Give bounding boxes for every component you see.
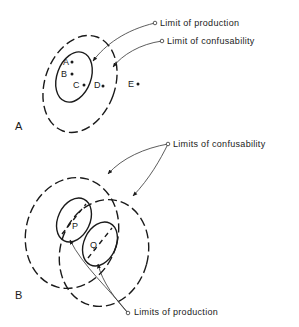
confusability-leader-a [113,41,162,67]
confusability-leader-anchor [160,39,164,43]
confusability-boundary-p [13,167,131,299]
svg-text:A: A [63,57,69,67]
production-leader-a [93,23,155,61]
panel-b-label: B [15,289,22,301]
region-p-label: P [72,221,78,231]
confusability-boundary-a [30,25,130,143]
production-leader-anchor-b [126,311,130,315]
production-leader-anchor [153,21,157,25]
svg-text:B: B [61,69,67,79]
confusability-boundary-q [48,189,161,316]
svg-text:C: C [73,80,80,90]
region-q-label: Q [90,240,97,250]
limit-of-confusability-label: Limit of confusability [167,36,255,46]
svg-text:E: E [128,79,134,89]
confusability-leader-b2 [133,144,168,196]
point-b: B [61,69,74,79]
point-c: C [73,80,86,90]
point-d: D [94,80,105,90]
point-e: E [128,79,140,89]
confusability-diagram: A B C D E Limit of production Limit of c… [0,0,299,327]
confusability-leader-b1 [108,144,168,174]
panel-b: P Q Limits of confusability Limits of pr… [13,139,266,317]
panel-a: A B C D E Limit of production Limit of c… [15,18,255,143]
production-boundary-a [49,47,99,107]
svg-text:D: D [94,80,101,90]
point-a: A [63,57,74,67]
limits-of-production-label: Limits of production [134,307,218,317]
confusability-leader-anchor-b [166,142,170,146]
production-leader-b1 [70,240,128,313]
panel-a-label: A [15,120,23,132]
limit-of-production-label: Limit of production [160,18,239,28]
limits-of-confusability-label: Limits of confusability [173,139,266,149]
